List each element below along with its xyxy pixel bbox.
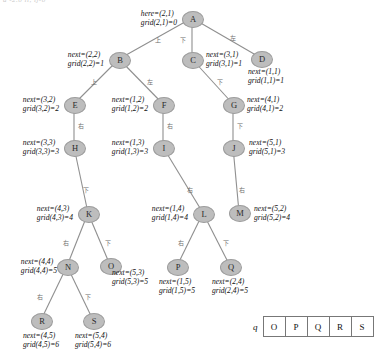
annotation-i: next=(1,3)grid(1,3)=3 xyxy=(112,138,148,157)
tree-node-h: H xyxy=(64,140,86,157)
annotation-n: next=(4,4)grid(4,4)=5 xyxy=(21,257,57,276)
annotation-l-line2: grid(1,4)=4 xyxy=(152,213,188,222)
annotation-k-line2: grid(4,3)=4 xyxy=(37,213,73,222)
tree-node-f: F xyxy=(153,97,175,114)
figure-canvas: a -2.0 ii, ij-0 上下左上左下右右下下右右右下右下右下 ABCDE… xyxy=(0,0,375,355)
edge-label-l-q: 下 xyxy=(223,240,229,246)
annotation-o-line2: grid(5,3)=5 xyxy=(112,277,148,286)
edge-label-k-n: 右 xyxy=(63,240,69,246)
edge-label-a-b: 上 xyxy=(155,37,161,43)
annotation-r: next=(4,5)grid(4,5)=6 xyxy=(23,331,59,350)
edge-h-k xyxy=(74,147,88,213)
tree-node-n: N xyxy=(57,259,79,276)
edge-label-a-c: 下 xyxy=(180,37,186,43)
annotation-e: next=(3,2)grid(3,2)=2 xyxy=(23,95,59,114)
annotation-p: next=(1,5)grid(1,5)=5 xyxy=(159,277,195,296)
annotation-b: next=(2,2)grid(2,2)=1 xyxy=(68,50,104,69)
tree-node-p: P xyxy=(167,259,189,276)
edge-label-n-r: 右 xyxy=(37,294,43,300)
edge-label-l-p: 右 xyxy=(178,240,184,246)
queue-cell-1: P xyxy=(286,317,308,336)
tree-node-q: Q xyxy=(220,259,242,276)
annotation-s-line1: next=(5,4) xyxy=(75,331,111,340)
annotation-h: next=(3,3)grid(3,3)=3 xyxy=(23,138,59,157)
annotation-a: here=(2,1)grid(2,1)=0 xyxy=(141,9,177,28)
tree-node-b: B xyxy=(109,52,131,69)
annotation-e-line1: next=(3,2) xyxy=(23,95,59,104)
queue-cell-4: S xyxy=(352,317,373,336)
annotation-l-line1: next=(1,4) xyxy=(152,204,188,213)
edge-label-h-k: 下 xyxy=(83,187,89,193)
annotation-g: next=(4,1)grid(4,1)=2 xyxy=(247,95,283,114)
tree-node-j: J xyxy=(223,140,245,157)
annotation-g-line2: grid(4,1)=2 xyxy=(247,104,283,113)
annotation-j-line2: grid(5,1)=3 xyxy=(249,147,285,156)
annotation-f-line1: next=(1,2) xyxy=(112,95,148,104)
annotation-e-line2: grid(3,2)=2 xyxy=(23,104,59,113)
queue-widget: q OPQRS xyxy=(253,316,374,337)
edge-label-c-g: 下 xyxy=(217,79,223,85)
annotation-q-line2: grid(2,4)=5 xyxy=(212,286,248,295)
edge-label-k-o: 下 xyxy=(105,240,111,246)
annotation-o-line1: next=(5,3) xyxy=(112,268,148,277)
tree-node-i: I xyxy=(153,140,175,157)
annotation-p-line1: next=(1,5) xyxy=(159,277,195,286)
edge-label-f-i: 右 xyxy=(167,123,173,129)
annotation-a-line2: grid(2,1)=0 xyxy=(141,18,177,27)
annotation-c-line1: next=(3,1) xyxy=(206,50,242,59)
annotation-m-line2: grid(5,2)=4 xyxy=(254,213,290,222)
edge-label-j-m: 右 xyxy=(239,187,245,193)
annotation-q-line1: next=(2,4) xyxy=(212,277,248,286)
edge-j-m xyxy=(233,147,239,212)
queue-cell-0: O xyxy=(264,317,286,336)
annotation-m: next=(5,2)grid(5,2)=4 xyxy=(254,204,290,223)
annotation-h-line1: next=(3,3) xyxy=(23,138,59,147)
queue-label: q xyxy=(253,322,258,332)
tree-node-d: D xyxy=(251,51,273,68)
edge-label-a-d: 左 xyxy=(230,35,236,41)
tree-node-g: G xyxy=(223,97,245,114)
annotation-b-line1: next=(2,2) xyxy=(68,50,104,59)
annotation-m-line1: next=(5,2) xyxy=(254,204,290,213)
queue-cell-2: Q xyxy=(308,317,330,336)
tree-node-m: M xyxy=(229,205,251,222)
annotation-a-line1: here=(2,1) xyxy=(141,9,177,18)
annotation-s: next=(5,4)grid(5,4)=6 xyxy=(75,331,111,350)
annotation-k-line1: next=(4,3) xyxy=(37,204,73,213)
tree-node-e: E xyxy=(64,97,86,114)
annotation-i-line2: grid(1,3)=3 xyxy=(112,147,148,156)
annotation-k: next=(4,3)grid(4,3)=4 xyxy=(37,204,73,223)
annotation-n-line2: grid(4,4)=5 xyxy=(21,266,57,275)
edge-label-b-e: 上 xyxy=(91,79,97,85)
annotation-g-line1: next=(4,1) xyxy=(247,95,283,104)
annotation-c: next=(3,1)grid(3,1)=1 xyxy=(206,50,242,69)
queue-cell-3: R xyxy=(330,317,352,336)
annotation-d: next=(1,1)grid(1,1)=1 xyxy=(248,67,284,86)
annotation-i-line1: next=(1,3) xyxy=(112,138,148,147)
edge-label-g-j: 下 xyxy=(237,123,243,129)
tree-node-c: C xyxy=(182,52,204,69)
annotation-r-line2: grid(4,5)=6 xyxy=(23,340,59,349)
tree-node-s: S xyxy=(83,313,105,330)
annotation-f-line2: grid(1,2)=2 xyxy=(112,104,148,113)
annotation-r-line1: next=(4,5) xyxy=(23,331,59,340)
edge-label-i-l: 右 xyxy=(187,187,193,193)
tree-node-r: R xyxy=(31,313,53,330)
annotation-b-line2: grid(2,2)=1 xyxy=(68,59,104,68)
edge-label-n-s: 下 xyxy=(85,294,91,300)
annotation-f: next=(1,2)grid(1,2)=2 xyxy=(112,95,148,114)
annotation-j: next=(5,1)grid(5,1)=3 xyxy=(249,138,285,157)
annotation-d-line2: grid(1,1)=1 xyxy=(248,76,284,85)
tree-node-k: K xyxy=(78,206,100,223)
queue-cells: OPQRS xyxy=(263,316,374,337)
annotation-j-line1: next=(5,1) xyxy=(249,138,285,147)
annotation-o: next=(5,3)grid(5,3)=5 xyxy=(112,268,148,287)
annotation-h-line2: grid(3,3)=3 xyxy=(23,147,59,156)
annotation-d-line1: next=(1,1) xyxy=(248,67,284,76)
tree-node-l: L xyxy=(193,206,215,223)
annotation-c-line2: grid(3,1)=1 xyxy=(206,59,242,68)
annotation-l: next=(1,4)grid(1,4)=4 xyxy=(152,204,188,223)
annotation-n-line1: next=(4,4) xyxy=(21,257,57,266)
edge-label-e-h: 右 xyxy=(78,123,84,129)
annotation-q: next=(2,4)grid(2,4)=5 xyxy=(212,277,248,296)
